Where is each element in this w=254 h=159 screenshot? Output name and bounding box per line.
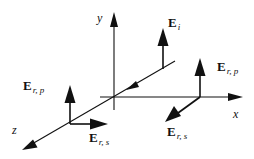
reflected-p-right-label-main: E [217,59,226,74]
incident-e-vector [158,28,169,69]
x-axis-arrowhead [228,93,243,101]
z-axis-label: z [11,123,17,137]
reflected-p-left-arrowhead [65,85,76,103]
reflected-s-right-arrowhead [165,106,181,122]
incident-e-arrowhead [158,28,169,46]
reflected-s-left-label: Er, s [89,130,110,147]
reflected-p-right-label-sub: r, p [227,66,239,76]
y-axis-label: y [96,11,103,25]
reflection-vector-diagram: y x z Ei Er, p Er, p Er, s Er, s [0,0,254,159]
reflected-s-right-label-sub: r, s [177,131,188,141]
x-axis-label: x [232,107,239,121]
reflected-s-left-label-sub: r, s [99,137,110,147]
reflected-s-left-arrowhead [90,119,108,130]
reflected-p-left-label-sub: r, p [33,85,45,95]
incidence-direction-arrowhead [126,81,139,90]
reflected-s-right-label: Er, s [167,124,188,141]
reflected-s-right-label-main: E [167,124,176,139]
reflected-p-left-label: Er, p [23,78,45,95]
x-axis [100,93,243,101]
z-axis-arrowhead [22,140,38,151]
incident-e-label-sub: i [178,22,181,32]
reflected-p-right-arrowhead [195,58,206,76]
incident-e-label: Ei [168,15,181,32]
reflected-p-vector-left [65,85,76,124]
reflected-p-vector-right [195,58,206,97]
incident-e-label-main: E [168,15,177,30]
y-axis-arrowhead [110,12,118,27]
reflected-s-vector-left [70,119,108,130]
reflected-p-left-label-main: E [23,78,32,93]
reflected-p-right-label: Er, p [217,59,239,76]
reflected-s-left-label-main: E [89,130,98,145]
reflected-s-vector-right [165,97,200,122]
